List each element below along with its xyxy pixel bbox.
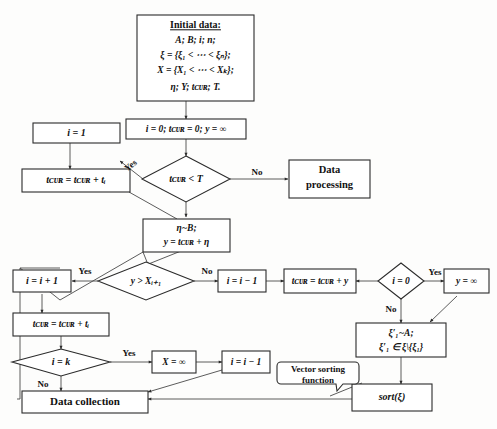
node-xi-prime: ξ′₁~A; ξ′₁ ∈ ξ\{ξ₁} <box>356 323 446 357</box>
xi-prime-line-1: ξ′₁~A; <box>388 328 413 339</box>
node-i-dec-low: i = i − 1 <box>222 351 270 373</box>
eta-b-line-2: y = tᴄᴜʀ + η <box>163 237 210 247</box>
label-no-i-eq-k: No <box>38 379 49 389</box>
label-yes-i-eq-0: Yes <box>429 267 442 277</box>
i-dec-mid-text: i = i − 1 <box>227 276 258 286</box>
label-no-y-gt-X: No <box>202 266 213 276</box>
node-y-inf: y = ∞ <box>444 269 489 293</box>
node-decide-i-eq-0: i = 0 <box>378 263 424 299</box>
node-decide-tcur-lt-T: tᴄᴜʀ < T <box>142 156 230 202</box>
eta-b-line-1: η~B; <box>176 223 196 233</box>
x-inf-text: X = ∞ <box>161 357 185 367</box>
edge-tcurti-to-eta <box>129 192 177 219</box>
label-yes-y-gt-X: Yes <box>79 266 92 276</box>
initial-data-line-3: X = {X₁ < ⋯ < Xₖ}; <box>156 65 234 75</box>
initial-data-line-1: A; B; i; n; <box>174 35 215 45</box>
i-eq-1-text: i = 1 <box>67 127 85 138</box>
vector-note-line-2: function <box>302 375 334 385</box>
node-i-inc: i = i + 1 <box>13 270 71 292</box>
initial-data-line-2: ξ = {ξ₁ < ⋯ < ξₙ}; <box>160 50 230 61</box>
label-no-i-eq-0: No <box>386 304 397 314</box>
label-yes-i-eq-k: Yes <box>123 348 136 358</box>
decide-y-gt-X-text: y > Xᵢ₊₁ <box>130 276 162 286</box>
node-initial-data: Initial data: A; B; i; n; ξ = {ξ₁ < ⋯ < … <box>137 15 254 101</box>
node-tcur-plus-y: tᴄᴜʀ = tᴄᴜʀ + y <box>284 269 356 293</box>
node-decide-y-gt-X: y > Xᵢ₊₁ <box>98 262 194 300</box>
node-i-dec-mid: i = i − 1 <box>218 270 266 292</box>
node-init-vars: i = 0; tᴄᴜʀ = 0; y = ∞ <box>126 119 246 139</box>
data-processing-line-2: processing <box>306 179 354 190</box>
node-x-inf: X = ∞ <box>152 351 196 373</box>
edge-eta-to-ygtx-a <box>143 252 147 262</box>
initial-data-line-4: η; Y; tᴄᴜʀ; T. <box>171 82 221 92</box>
node-data-collection: Data collection <box>22 391 148 413</box>
init-vars-text: i = 0; tᴄᴜʀ = 0; y = ∞ <box>146 124 227 134</box>
data-collection-text: Data collection <box>50 395 120 407</box>
decide-i-eq-k-text: i = k <box>52 356 70 367</box>
y-inf-text: y = ∞ <box>455 276 477 286</box>
xi-prime-line-2: ξ′₁ ∈ ξ\{ξ₁} <box>379 342 424 353</box>
decide-tcur-lt-T-text: tᴄᴜʀ < T <box>169 173 203 184</box>
node-tcur-plus-ti-low: tᴄᴜʀ = tᴄᴜʀ + tᵢ <box>13 313 109 336</box>
initial-data-heading: Initial data: <box>170 19 221 30</box>
decide-i-eq-0-text: i = 0 <box>392 276 410 286</box>
node-vector-sorting-note: Vector sorting function <box>277 362 359 391</box>
node-eta-b: η~B; y = tᴄᴜʀ + η <box>143 219 230 252</box>
i-dec-low-text: i = i − 1 <box>231 357 262 367</box>
node-i-eq-1: i = 1 <box>33 123 120 143</box>
tcur-plus-y-text: tᴄᴜʀ = tᴄᴜʀ + y <box>292 276 349 286</box>
node-decide-i-eq-k: i = k <box>12 349 110 376</box>
i-inc-text: i = i + 1 <box>26 275 58 286</box>
vector-note-line-1: Vector sorting <box>291 364 346 374</box>
node-data-processing: Data processing <box>289 160 370 198</box>
tcur-plus-ti-top-text: tᴄᴜʀ = tᴄᴜʀ + tᵢ <box>46 174 106 185</box>
tcur-plus-ti-low-text: tᴄᴜʀ = tᴄᴜʀ + tᵢ <box>33 319 90 329</box>
data-processing-line-1: Data <box>319 164 341 175</box>
edge-yinf-to-xi <box>430 296 457 322</box>
sort-xi-text: sort(ξ) <box>378 391 406 403</box>
node-tcur-plus-ti-top: tᴄᴜʀ = tᴄᴜʀ + tᵢ <box>22 169 130 192</box>
node-sort-xi: sort(ξ) <box>352 384 432 411</box>
flowchart-canvas: Initial data: A; B; i; n; ξ = {ξ₁ < ⋯ < … <box>0 0 497 429</box>
label-no-tcur-lt-T: No <box>252 167 263 177</box>
